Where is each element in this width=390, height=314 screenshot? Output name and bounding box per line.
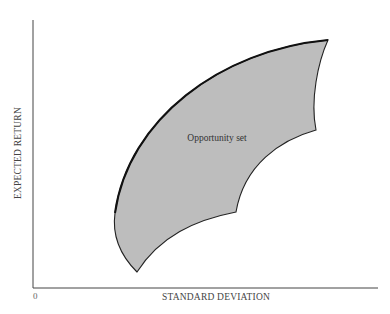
opportunity-set-label: Opportunity set — [187, 133, 246, 143]
diagram-canvas — [0, 0, 390, 314]
y-axis-label: EXPECTED RETURN — [13, 107, 23, 199]
origin-label: 0 — [33, 291, 38, 301]
x-axis-label: STANDARD DEVIATION — [162, 292, 270, 302]
opportunity-set-region — [114, 40, 328, 272]
